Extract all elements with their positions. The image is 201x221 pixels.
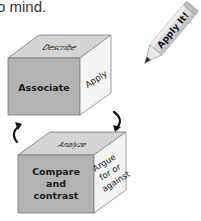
cube-bottom: Analyze Compare and contrast Argue for o…: [18, 132, 132, 213]
cube-bottom-top-label: Analyze: [55, 141, 89, 149]
rotate-arrow-right: [113, 112, 121, 132]
cubing-diagram: Describe Associate Apply Analyze Compare…: [0, 0, 201, 221]
apply-it-pencil: Apply It!: [138, 1, 198, 69]
pencil-label: Apply It!: [155, 10, 191, 50]
front-line-1: Compare: [32, 166, 80, 177]
front-line-3: contrast: [34, 190, 79, 201]
rotate-arrow-left: [14, 122, 22, 142]
cube-top: Describe Associate Apply: [8, 35, 111, 115]
cube-top-top-label: Describe: [41, 43, 79, 52]
front-line-2: and: [46, 178, 66, 189]
cube-top-front-label: Associate: [18, 82, 69, 93]
